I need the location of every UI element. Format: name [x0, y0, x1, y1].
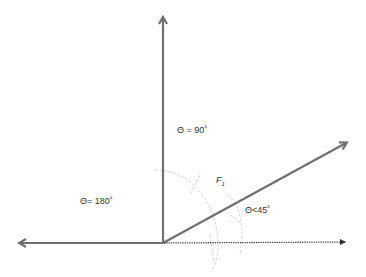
- theta-90-label: Θ = 90˚: [177, 126, 207, 135]
- theta-lt-45-label: Θ<45˚: [245, 206, 270, 215]
- force-subscript: 1: [222, 181, 225, 187]
- arc-large: [155, 170, 218, 270]
- arc-tick-3: [210, 235, 214, 262]
- arc-tick-1: [190, 175, 200, 195]
- construction-arcs: [155, 170, 242, 270]
- vector-diagram: [0, 0, 366, 277]
- force-f1-label: F1: [216, 176, 225, 187]
- reference-axis: [164, 242, 346, 243]
- force-vector-f1: [163, 143, 346, 243]
- arc-tick-2: [230, 215, 240, 222]
- theta-180-label: Θ= 180˚: [80, 197, 113, 206]
